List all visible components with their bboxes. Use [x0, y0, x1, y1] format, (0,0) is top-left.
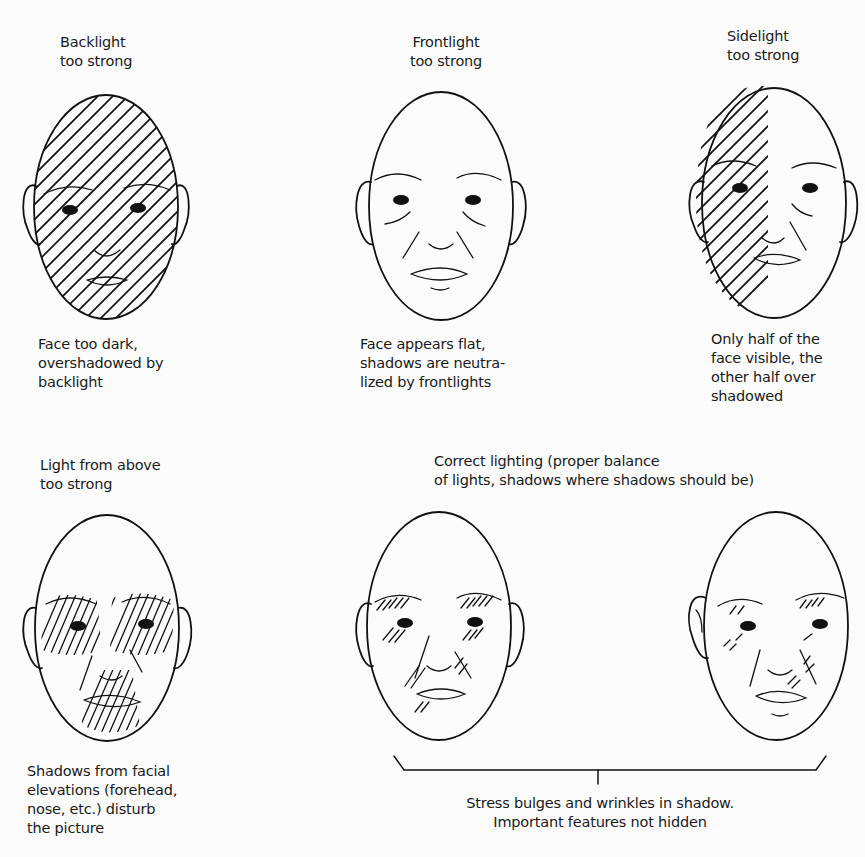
caption-line: shadowed	[711, 387, 822, 406]
brow-shading	[377, 596, 493, 610]
panel-title-correct-lighting: Correct lighting (proper balance of ligh…	[434, 452, 754, 490]
panel-caption-correct-lighting: Stress bulges and wrinkles in shadow. Im…	[380, 794, 820, 832]
left-ear-icon	[356, 603, 373, 666]
face-sidelight-illustration	[676, 78, 861, 323]
caption-line: Important features not hidden	[380, 813, 820, 832]
eye-icon	[70, 621, 86, 631]
caption-line: Shadows from facial	[27, 762, 177, 781]
caption-line: overshadowed by	[38, 354, 163, 373]
face-correct-lighting-angled-illustration	[680, 500, 865, 745]
title-line: Backlight	[60, 33, 132, 52]
panel-title-backlight: Backlight too strong	[60, 33, 132, 71]
right-ear-icon	[507, 603, 524, 666]
panel-caption-backlight: Face too dark, overshadowed by backlight	[38, 335, 163, 392]
caption-line: other half over	[711, 368, 822, 387]
hatching-full	[12, 82, 197, 327]
title-line: Light from above	[40, 456, 160, 475]
under-eye-shading	[383, 628, 483, 642]
title-line: too strong	[40, 475, 160, 494]
face-correct-lighting-front-illustration	[345, 498, 530, 743]
hatching-eyes-mouth	[32, 590, 190, 745]
title-line: Sidelight	[727, 27, 799, 46]
face-frontlight-illustration	[345, 82, 530, 327]
face-light-from-above-illustration	[12, 500, 202, 745]
left-ear-icon	[23, 608, 42, 669]
caption-line: the picture	[27, 819, 177, 838]
title-line: too strong	[385, 52, 507, 71]
caption-line: Only half of the	[711, 330, 822, 349]
panel-title-light-from-above: Light from above too strong	[40, 456, 160, 494]
nose-shading	[405, 658, 467, 712]
title-line: Correct lighting (proper balance	[434, 452, 754, 471]
caption-line: Face appears flat,	[360, 335, 505, 354]
caption-line: Stress bulges and wrinkles in shadow.	[380, 794, 820, 813]
cheek-shading	[724, 634, 812, 650]
eye-icon	[467, 617, 483, 627]
eye-icon	[397, 618, 413, 628]
panel-caption-light-from-above: Shadows from facial elevations (forehead…	[27, 762, 177, 838]
eye-icon	[812, 619, 828, 629]
caption-line: shadows are neutra-	[360, 354, 505, 373]
caption-line: Face too dark,	[38, 335, 163, 354]
hatching-left-half	[676, 78, 861, 323]
title-line: of lights, shadows where shadows should …	[434, 471, 754, 490]
panel-title-sidelight: Sidelight too strong	[727, 27, 799, 65]
eye-icon	[802, 183, 818, 193]
caption-line: lized by frontlights	[360, 373, 505, 392]
left-ear-icon	[23, 185, 40, 244]
face-backlight-illustration	[12, 82, 197, 327]
eye-icon	[732, 183, 748, 193]
panel-caption-sidelight: Only half of the face visible, the other…	[711, 330, 822, 406]
title-line: too strong	[60, 52, 132, 71]
eye-icon	[740, 621, 756, 631]
grouping-brace	[390, 752, 840, 786]
eye-icon	[393, 195, 409, 205]
eye-icon	[62, 205, 78, 215]
eye-icon	[138, 619, 154, 629]
title-line: too strong	[727, 46, 799, 65]
title-line: Frontlight	[385, 33, 507, 52]
caption-line: backlight	[38, 373, 163, 392]
eye-icon	[130, 203, 146, 213]
panel-title-frontlight: Frontlight too strong	[385, 33, 507, 71]
right-ear-icon	[840, 181, 857, 242]
caption-line: elevations (forehead,	[27, 781, 177, 800]
brow-shading	[730, 598, 824, 614]
caption-line: face visible, the	[711, 349, 822, 368]
panel-caption-frontlight: Face appears flat, shadows are neutra- l…	[360, 335, 505, 392]
caption-line: nose, etc.) disturb	[27, 800, 177, 819]
eye-icon	[465, 195, 481, 205]
